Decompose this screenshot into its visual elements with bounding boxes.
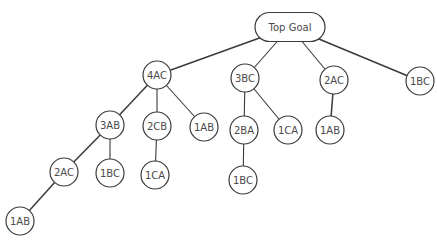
node-label: 2BA [234, 125, 254, 136]
node-label: 1BC [233, 175, 253, 186]
node-n1BC_b: 1BC [96, 159, 124, 187]
node-label: 3AB [100, 120, 120, 131]
node-n1AB_a: 1AB [190, 113, 218, 141]
node-label: 2AC [324, 75, 344, 86]
node-n1BC_c: 1BC [229, 166, 257, 194]
node-n3BC: 3BC [231, 64, 259, 92]
tree-nodes: Top Goal4AC3BC2AC1BC3AB2CB1AB2BA1CA1AB2A… [6, 13, 434, 236]
node-n1AB_b: 1AB [316, 116, 344, 144]
tree-edges [20, 27, 420, 221]
goal-tree-diagram: Top Goal4AC3BC2AC1BC3AB2CB1AB2BA1CA1AB2A… [0, 0, 437, 245]
node-label: 2CB [147, 121, 167, 132]
node-n2AC_a: 2AC [320, 66, 348, 94]
node-label: 3BC [235, 73, 255, 84]
node-n3AB: 3AB [96, 111, 124, 139]
node-n4AC: 4AC [143, 61, 171, 89]
node-n1CA_b: 1CA [141, 161, 169, 189]
node-n1BC_a: 1BC [406, 67, 434, 95]
node-n2BA: 2BA [230, 116, 258, 144]
node-label: 2AC [54, 167, 74, 178]
node-n2CB: 2CB [143, 112, 171, 140]
node-label: 1CA [278, 125, 298, 136]
node-top: Top Goal [255, 13, 325, 42]
node-n1AB_c: 1AB [6, 207, 34, 235]
node-label: Top Goal [268, 22, 312, 33]
node-label: 1AB [194, 122, 214, 133]
node-label: 1CA [145, 170, 165, 181]
node-label: 1AB [10, 216, 30, 227]
node-label: 4AC [147, 70, 167, 81]
node-label: 1AB [320, 125, 340, 136]
node-label: 1BC [100, 168, 120, 179]
node-n2AC_b: 2AC [50, 158, 78, 186]
node-n1CA_a: 1CA [274, 116, 302, 144]
node-label: 1BC [410, 76, 430, 87]
